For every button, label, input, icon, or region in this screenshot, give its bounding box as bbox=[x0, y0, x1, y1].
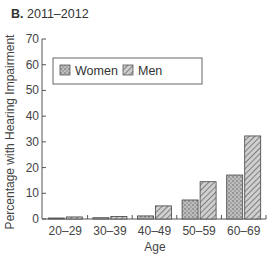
legend-label-men: Men bbox=[138, 64, 162, 78]
bar-women bbox=[182, 200, 198, 219]
y-axis-title: Percentage with Hearing Impairment bbox=[3, 34, 17, 229]
bar-men bbox=[245, 136, 261, 219]
bar-men bbox=[200, 182, 216, 219]
legend-label-women: Women bbox=[75, 64, 118, 78]
bar-women bbox=[138, 216, 154, 219]
bars bbox=[48, 136, 260, 219]
x-tick-label: 40–49 bbox=[138, 224, 172, 238]
y-tick-label: 20 bbox=[26, 161, 40, 175]
y-tick-label: 50 bbox=[26, 83, 40, 97]
y-tick-label: 30 bbox=[26, 135, 40, 149]
y-tick-label: 60 bbox=[26, 58, 40, 72]
y-tick-label: 0 bbox=[32, 212, 39, 226]
y-tick-label: 40 bbox=[26, 109, 40, 123]
legend-swatch-men bbox=[123, 65, 133, 75]
x-tick-label: 60–69 bbox=[227, 224, 261, 238]
bar-men bbox=[66, 217, 82, 219]
x-axis-title: Age bbox=[144, 240, 166, 254]
y-tick-label: 10 bbox=[26, 186, 40, 200]
legend-swatch-women bbox=[60, 65, 70, 75]
legend: Women Men bbox=[53, 58, 202, 84]
x-tick-label: 20–29 bbox=[49, 224, 83, 238]
bar-women bbox=[48, 218, 64, 219]
x-tick-label: 30–39 bbox=[93, 224, 127, 238]
bar-women bbox=[93, 218, 109, 219]
y-tick-label: 70 bbox=[26, 32, 40, 46]
bar-men bbox=[156, 206, 172, 219]
bar-men bbox=[111, 216, 127, 219]
bar-women bbox=[227, 175, 243, 219]
x-tick-label: 50–59 bbox=[182, 224, 216, 238]
bar-chart: 01020304050607020–2930–3940–4950–5960–69… bbox=[0, 0, 274, 258]
